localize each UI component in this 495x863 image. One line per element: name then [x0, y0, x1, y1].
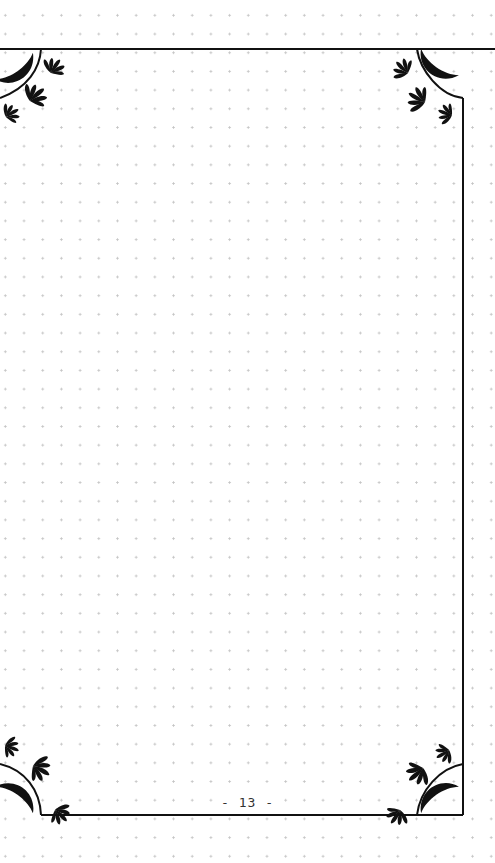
notebook-page: - 13 - [0, 0, 495, 863]
fan-sprig-icon [17, 77, 52, 114]
fan-sprig-icon [38, 51, 70, 82]
fan-sprig-icon [386, 53, 418, 84]
crescent-icon [412, 49, 458, 88]
fan-sprig-icon [400, 755, 435, 792]
page-number-label: - 13 - [218, 795, 277, 810]
page-number: - 13 - [0, 796, 495, 810]
fan-sprig-icon [432, 740, 457, 769]
corner-top-right [0, 49, 463, 815]
fan-sprig-icon [0, 733, 24, 762]
fan-sprig-icon [0, 99, 23, 128]
fan-sprig-icon [433, 100, 458, 129]
ornamental-frame [0, 0, 495, 863]
fan-sprig-icon [400, 81, 435, 118]
corner-bottom-right [381, 740, 463, 832]
